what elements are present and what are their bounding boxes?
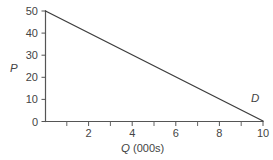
x-tick-label-10: 10 (257, 127, 269, 139)
y-tick-label-0: 0 (32, 116, 38, 128)
x-axis-title-unit: (000s) (133, 142, 164, 154)
chart-canvas: 0 10 20 30 40 50 2 4 6 8 (0, 0, 273, 160)
y-tick-label-40: 40 (26, 27, 38, 39)
x-tick-label-4: 4 (129, 127, 135, 139)
y-tick-label-10: 10 (26, 93, 38, 105)
series-label-D: D (251, 92, 259, 104)
x-axis-title: Q (000s) (121, 142, 164, 154)
chart-background (0, 0, 273, 160)
y-tick-label-50: 50 (26, 5, 38, 17)
x-tick-label-2: 2 (86, 127, 92, 139)
x-tick-label-6: 6 (173, 127, 179, 139)
y-axis-title: P (10, 62, 18, 74)
x-axis-title-symbol: Q (121, 142, 130, 154)
demand-curve-figure: 0 10 20 30 40 50 2 4 6 8 (0, 0, 273, 160)
y-tick-label-30: 30 (26, 49, 38, 61)
x-tick-label-8: 8 (216, 127, 222, 139)
y-tick-label-20: 20 (26, 71, 38, 83)
